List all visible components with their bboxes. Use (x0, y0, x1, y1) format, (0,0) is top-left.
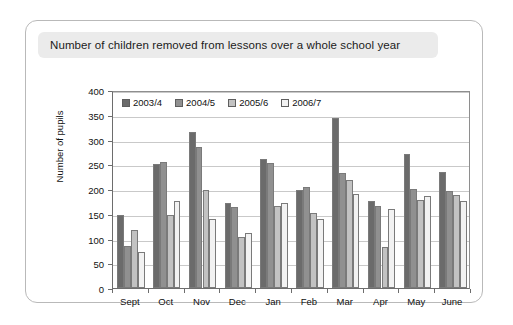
y-axis-tick-label: 350 (70, 110, 104, 121)
legend-label: 2003/4 (133, 97, 162, 108)
x-axis-tick-mark (398, 289, 399, 293)
gridline (113, 92, 469, 93)
legend-swatch-icon (122, 99, 130, 107)
bar (446, 191, 453, 288)
bar (424, 196, 431, 288)
bar (453, 195, 460, 288)
chart-title-banner: Number of children removed from lessons … (38, 32, 438, 58)
bar (332, 118, 339, 288)
bar (417, 200, 424, 288)
y-axis-tick-label: 250 (70, 160, 104, 171)
legend-item: 2004/5 (175, 97, 215, 108)
bar (375, 206, 382, 288)
y-axis-tick-mark (108, 190, 112, 191)
legend-item: 2005/6 (228, 97, 268, 108)
bar (317, 219, 324, 288)
x-axis-tick-mark (255, 289, 256, 293)
bar (368, 201, 375, 288)
y-axis-label: Number of pupils (54, 87, 65, 207)
x-axis-tick-mark (434, 289, 435, 293)
y-axis-tick-label: 300 (70, 135, 104, 146)
y-axis-tick-mark (108, 165, 112, 166)
x-axis-tick-mark (327, 289, 328, 293)
x-axis-tick-mark (363, 289, 364, 293)
bar (296, 190, 303, 288)
bar (274, 206, 281, 288)
bar (410, 189, 417, 288)
y-axis-tick-label: 100 (70, 234, 104, 245)
x-axis-tick-label: May (407, 296, 425, 307)
bar (346, 180, 353, 288)
bar (167, 215, 174, 288)
bar (245, 233, 252, 288)
bar (339, 173, 346, 288)
bar (439, 172, 446, 288)
chart-legend: 2003/42004/52005/62006/7 (122, 97, 321, 108)
x-axis-tick-label: Dec (229, 296, 246, 307)
x-axis-tick-label: Mar (337, 296, 353, 307)
bar (382, 247, 389, 288)
bar (260, 159, 267, 288)
x-axis-tick-mark (112, 289, 113, 293)
x-axis-tick-label: June (442, 296, 463, 307)
x-axis-tick-label: Apr (373, 296, 388, 307)
x-axis-tick-label: Oct (158, 296, 173, 307)
bar (160, 162, 167, 288)
y-axis-tick-label: 0 (70, 284, 104, 295)
bar (238, 237, 245, 288)
legend-label: 2006/7 (292, 97, 321, 108)
legend-swatch-icon (228, 99, 236, 107)
y-axis-tick-mark (108, 116, 112, 117)
bar-chart: Number of pupils 05010015020025030035040… (26, 63, 484, 301)
y-axis-tick-label: 50 (70, 259, 104, 270)
x-axis-tick-mark (219, 289, 220, 293)
bar (404, 154, 411, 288)
bar (225, 203, 232, 288)
gridline (113, 117, 469, 118)
legend-item: 2006/7 (281, 97, 321, 108)
bar (131, 230, 138, 288)
page-title: Number of children removed from lessons … (50, 39, 400, 51)
x-axis-tick-mark (148, 289, 149, 293)
bar (281, 203, 288, 288)
bar (353, 194, 360, 288)
bar (203, 190, 210, 288)
bar (138, 252, 145, 288)
bar (388, 209, 395, 288)
legend-label: 2005/6 (239, 97, 268, 108)
legend-swatch-icon (175, 99, 183, 107)
bar (117, 215, 124, 288)
plot-area (112, 91, 470, 289)
gridline (113, 142, 469, 143)
bar (124, 246, 131, 288)
legend-swatch-icon (281, 99, 289, 107)
bar (209, 219, 216, 288)
legend-item: 2003/4 (122, 97, 162, 108)
y-axis-tick-mark (108, 240, 112, 241)
y-axis-tick-mark (108, 264, 112, 265)
y-axis-tick-label: 200 (70, 185, 104, 196)
bar (189, 132, 196, 288)
y-axis-tick-label: 400 (70, 86, 104, 97)
x-axis-tick-label: Jan (265, 296, 280, 307)
x-axis-tick-mark (184, 289, 185, 293)
bar (174, 201, 181, 288)
y-axis-tick-mark (108, 141, 112, 142)
y-axis-tick-mark (108, 91, 112, 92)
x-axis-tick-mark (470, 289, 471, 293)
bar (310, 213, 317, 288)
chart-figure-panel: Number of children removed from lessons … (25, 20, 483, 303)
x-axis-tick-mark (291, 289, 292, 293)
y-axis-tick-label: 150 (70, 209, 104, 220)
bar (231, 207, 238, 288)
bar (267, 163, 274, 288)
bar (460, 201, 467, 288)
bar (303, 187, 310, 288)
x-axis-tick-label: Sept (120, 296, 140, 307)
bar (196, 147, 203, 288)
x-axis-tick-label: Nov (193, 296, 210, 307)
legend-label: 2004/5 (186, 97, 215, 108)
y-axis-tick-mark (108, 215, 112, 216)
bar (153, 164, 160, 288)
x-axis-tick-label: Feb (301, 296, 317, 307)
